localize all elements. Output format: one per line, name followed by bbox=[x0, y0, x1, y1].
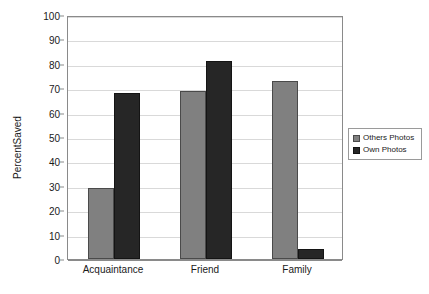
y-axis-ticks: 0102030405060708090100 bbox=[28, 16, 64, 260]
y-tick-label-10: 10 bbox=[49, 230, 60, 241]
y-tick-mark-10 bbox=[60, 235, 64, 236]
y-tick-label-70: 70 bbox=[49, 84, 60, 95]
y-tick-label-60: 60 bbox=[49, 108, 60, 119]
bar-acquaintance-own-photos bbox=[114, 93, 140, 259]
y-tick-mark-70 bbox=[60, 89, 64, 90]
y-axis-title: PercentSaved bbox=[6, 0, 28, 294]
legend-label: Own Photos bbox=[363, 145, 407, 155]
y-tick-label-50: 50 bbox=[49, 133, 60, 144]
x-label-family: Family bbox=[282, 264, 311, 275]
y-tick-mark-30 bbox=[60, 186, 64, 187]
y-tick-mark-40 bbox=[60, 162, 64, 163]
gridline-0 bbox=[68, 260, 342, 261]
legend-item-others-photos: Others Photos bbox=[353, 132, 418, 144]
y-tick-label-100: 100 bbox=[43, 11, 60, 22]
legend-label: Others Photos bbox=[363, 133, 414, 143]
plot-area bbox=[67, 16, 343, 260]
x-label-friend: Friend bbox=[191, 264, 219, 275]
legend-swatch-icon bbox=[353, 135, 360, 142]
y-tick-mark-80 bbox=[60, 64, 64, 65]
bar-chart: PercentSaved 0102030405060708090100 Acqu… bbox=[0, 0, 429, 294]
y-tick-label-90: 90 bbox=[49, 35, 60, 46]
x-label-acquaintance: Acquaintance bbox=[83, 264, 144, 275]
chart-legend: Others PhotosOwn Photos bbox=[348, 128, 422, 160]
legend-swatch-icon bbox=[353, 147, 360, 154]
bar-acquaintance-others-photos bbox=[88, 188, 114, 259]
y-tick-mark-90 bbox=[60, 40, 64, 41]
y-tick-mark-60 bbox=[60, 113, 64, 114]
y-axis-title-text: PercentSaved bbox=[12, 116, 23, 179]
bars-layer bbox=[68, 17, 342, 259]
bar-friend-others-photos bbox=[180, 91, 206, 259]
legend-item-own-photos: Own Photos bbox=[353, 144, 418, 156]
y-tick-mark-100 bbox=[60, 16, 64, 17]
y-tick-label-40: 40 bbox=[49, 157, 60, 168]
y-tick-label-80: 80 bbox=[49, 59, 60, 70]
y-tick-label-30: 30 bbox=[49, 181, 60, 192]
y-tick-mark-50 bbox=[60, 138, 64, 139]
y-tick-mark-0 bbox=[60, 260, 64, 261]
bar-family-own-photos bbox=[298, 249, 324, 259]
bar-friend-own-photos bbox=[206, 61, 232, 259]
bar-family-others-photos bbox=[272, 81, 298, 259]
y-tick-label-20: 20 bbox=[49, 206, 60, 217]
x-axis-labels: AcquaintanceFriendFamily bbox=[67, 264, 343, 284]
y-tick-mark-20 bbox=[60, 211, 64, 212]
